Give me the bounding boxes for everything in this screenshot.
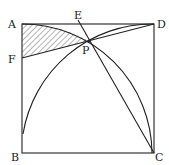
label-f: F [8, 53, 16, 66]
label-a: A [7, 18, 17, 31]
shaded-region [22, 24, 89, 58]
label-e: E [74, 9, 82, 22]
label-d: D [157, 18, 166, 31]
label-c: C [155, 151, 163, 164]
geometry-diagram: A E D F P B C [0, 0, 169, 165]
label-p: P [82, 44, 90, 57]
point-p [87, 39, 90, 42]
label-b: B [11, 151, 19, 164]
